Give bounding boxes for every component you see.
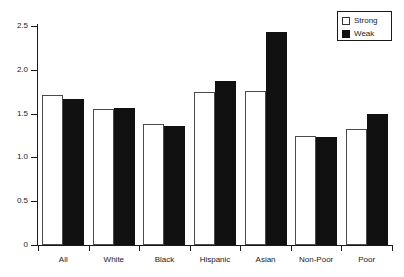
x-axis-tick <box>38 246 39 251</box>
y-axis-tick <box>31 114 37 115</box>
x-axis-tick <box>341 246 342 251</box>
bar-poor-weak <box>367 114 388 245</box>
legend-label-weak: Weak <box>354 30 374 38</box>
legend-label-strong: Strong <box>354 17 378 25</box>
y-axis-tick <box>31 157 37 158</box>
bar-chart: 00.51.01.52.02.5 AllWhiteBlackHispanicAs… <box>0 0 404 277</box>
bar-hispanic-strong <box>194 92 215 245</box>
bar-poor-strong <box>346 129 367 245</box>
legend-swatch-strong-icon <box>342 17 350 25</box>
y-axis-tick <box>31 201 37 202</box>
x-axis-tick <box>240 246 241 251</box>
bar-non-poor-weak <box>316 137 337 245</box>
y-axis-tick-label: 1.0 <box>2 153 28 161</box>
bar-black-strong <box>143 124 164 245</box>
x-axis-tick <box>392 246 393 251</box>
legend-item-strong: Strong <box>342 15 391 26</box>
bar-white-strong <box>93 109 114 245</box>
y-axis-tick-label: 2.0 <box>2 66 28 74</box>
legend-swatch-weak-icon <box>342 30 350 38</box>
x-axis-label-poor: Poor <box>332 256 402 264</box>
x-axis-tick <box>139 246 140 251</box>
bar-white-weak <box>114 108 135 245</box>
bar-all-weak <box>63 99 84 245</box>
bar-black-weak <box>164 126 185 245</box>
y-axis-tick-label: 1.5 <box>2 110 28 118</box>
bar-hispanic-weak <box>215 81 236 245</box>
x-axis-tick <box>89 246 90 251</box>
y-axis-tick <box>31 245 37 246</box>
y-axis-tick <box>31 70 37 71</box>
bar-asian-strong <box>245 91 266 245</box>
y-axis-tick-label: 2.5 <box>2 22 28 30</box>
plot-area <box>38 26 392 245</box>
chart-legend: Strong Weak <box>337 11 392 41</box>
x-axis-tick <box>291 246 292 251</box>
x-axis-tick <box>190 246 191 251</box>
y-axis-tick-label: 0.5 <box>2 197 28 205</box>
bar-non-poor-strong <box>295 136 316 245</box>
bar-asian-weak <box>266 32 287 245</box>
y-axis-tick-label: 0 <box>2 241 28 249</box>
y-axis-tick <box>31 26 37 27</box>
x-axis-line <box>37 245 393 246</box>
legend-item-weak: Weak <box>342 28 391 39</box>
bar-all-strong <box>42 95 63 245</box>
